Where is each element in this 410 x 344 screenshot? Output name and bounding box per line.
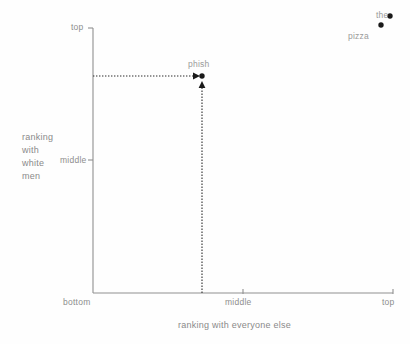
- y-axis-title-line-4: men: [22, 170, 53, 183]
- guide-arrow-horizontal: [193, 73, 200, 80]
- plot-canvas: [0, 0, 410, 344]
- scatter-plot-figure: ranking with white men ranking with ever…: [0, 0, 410, 344]
- y-axis-title-line-2: with: [22, 144, 53, 157]
- y-axis-title: ranking with white men: [22, 131, 53, 183]
- x-tick-label-top: top: [382, 297, 395, 309]
- data-point-pizza: [378, 22, 383, 27]
- y-axis-title-line-1: ranking: [22, 131, 53, 144]
- x-axis-title: ranking with everyone else: [178, 320, 291, 332]
- x-tick-label-bottom: bottom: [63, 297, 91, 309]
- data-point-phish: [199, 73, 204, 78]
- data-point-label-pizza: pizza: [348, 31, 369, 43]
- guide-arrow-vertical: [199, 81, 206, 88]
- data-point-label-phish: phish: [188, 59, 210, 71]
- y-axis-title-line-3: white: [22, 157, 53, 170]
- y-tick-label-middle: middle: [60, 155, 87, 167]
- data-point-label-the: the: [376, 10, 389, 22]
- x-tick-label-middle: middle: [225, 297, 252, 309]
- y-tick-label-top: top: [71, 22, 84, 34]
